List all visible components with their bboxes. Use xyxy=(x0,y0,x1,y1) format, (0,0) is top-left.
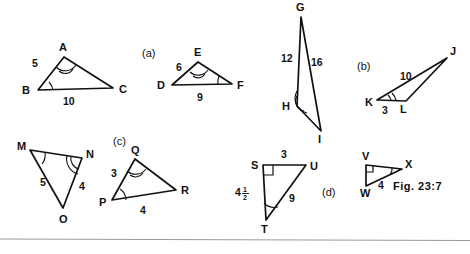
triangle-stu: S U T 3 9 4 1 2 xyxy=(235,148,318,235)
part-label-c: (c) xyxy=(113,135,126,147)
part-label-b: (b) xyxy=(357,60,370,72)
length-label-su: 3 xyxy=(281,148,287,160)
triangle-ghi-outline xyxy=(297,17,321,131)
length-label-pq: 3 xyxy=(111,167,117,179)
vertex-label-j: J xyxy=(450,45,456,57)
vertex-label-l: L xyxy=(400,103,407,115)
vertex-label-r: R xyxy=(181,184,189,196)
vertex-label-u: U xyxy=(310,160,318,172)
vertex-label-p: P xyxy=(99,196,106,208)
triangle-mno: M N O 5 4 xyxy=(17,140,94,225)
vertex-label-a: A xyxy=(59,41,67,53)
triangle-pqr: Q P R 3 4 xyxy=(99,144,189,216)
vertex-label-g: G xyxy=(296,1,305,13)
vertex-label-m: M xyxy=(17,140,26,152)
length-label-gi: 16 xyxy=(311,56,323,68)
triangle-abc: A B C 5 10 xyxy=(22,41,127,107)
vertex-label-d: D xyxy=(157,79,165,91)
length-label-df: 9 xyxy=(197,91,203,103)
length-label-wx: 4 xyxy=(378,179,384,191)
vertex-label-n: N xyxy=(86,148,94,160)
length-label-st-whole: 4 xyxy=(235,186,241,198)
triangle-jkl: J K L 10 3 xyxy=(365,45,456,116)
triangle-ghi: G H I 12 16 xyxy=(281,1,323,145)
triangle-stu-outline xyxy=(263,165,306,220)
angle-arc-b xyxy=(49,82,53,90)
vertex-label-k: K xyxy=(365,96,373,108)
vertex-label-q: Q xyxy=(131,144,140,156)
part-label-a: (a) xyxy=(142,47,155,59)
length-label-ab: 5 xyxy=(32,57,38,69)
vertex-label-b: B xyxy=(22,84,30,96)
vertex-label-e: E xyxy=(194,46,201,58)
horizontal-divider xyxy=(0,239,470,241)
triangle-abc-outline xyxy=(38,57,113,90)
angle-arc-k-inner xyxy=(388,95,391,100)
vertex-label-f: F xyxy=(237,79,244,91)
triangle-mno-outline xyxy=(30,150,82,208)
length-label-st-mixed-number: 4 1 2 xyxy=(235,186,249,201)
vertex-label-c: C xyxy=(119,83,127,95)
length-label-de: 6 xyxy=(176,61,182,73)
length-label-kl: 3 xyxy=(382,104,388,116)
vertex-label-x: X xyxy=(405,158,413,170)
vertex-label-i: I xyxy=(318,133,321,145)
length-label-st-denominator: 2 xyxy=(243,194,247,201)
angle-arc-k-outer xyxy=(392,93,396,100)
vertex-label-h: H xyxy=(282,100,290,112)
figure-caption: Fig. 23:7 xyxy=(393,180,442,192)
part-label-d: (d) xyxy=(322,186,335,198)
length-label-st-numerator: 1 xyxy=(243,186,247,193)
triangle-def: E D F 6 9 xyxy=(157,46,244,103)
vertex-label-t: T xyxy=(261,223,268,235)
length-label-gh: 12 xyxy=(281,52,293,64)
geometry-figure: A B C 5 10 (a) E D F 6 9 G H I 12 16 (b)… xyxy=(0,0,470,254)
vertex-label-v: V xyxy=(362,150,370,162)
vertex-label-o: O xyxy=(59,213,68,225)
length-label-mo: 5 xyxy=(40,176,46,188)
length-label-tu: 9 xyxy=(289,192,295,204)
length-label-no: 4 xyxy=(79,180,85,192)
right-angle-mark-s xyxy=(263,165,273,175)
vertex-label-s: S xyxy=(251,159,258,171)
angle-arc-f xyxy=(218,76,219,84)
length-label-pr: 4 xyxy=(140,204,146,216)
triangle-pqr-outline xyxy=(112,159,176,200)
triangle-jkl-outline xyxy=(377,58,447,101)
angle-arc-m xyxy=(42,152,45,164)
length-label-kj: 10 xyxy=(400,70,412,82)
length-label-bc: 10 xyxy=(63,95,75,107)
vertex-label-w: W xyxy=(360,187,371,199)
